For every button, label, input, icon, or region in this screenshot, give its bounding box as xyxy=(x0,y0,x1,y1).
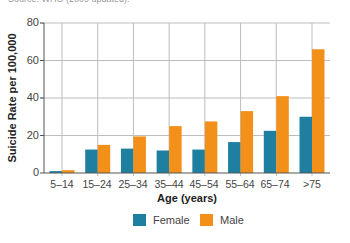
bar-male xyxy=(98,145,111,173)
bar-female xyxy=(264,131,277,173)
bar-male xyxy=(276,96,289,173)
bar-female xyxy=(85,150,98,173)
bar-female xyxy=(192,150,205,173)
legend-label-male: Male xyxy=(220,214,244,226)
legend-item-female: Female xyxy=(133,214,190,226)
x-tick: 35–44 xyxy=(154,178,183,190)
x-tick: >75 xyxy=(303,178,321,190)
bar-male xyxy=(205,121,218,173)
bar-male xyxy=(133,136,146,173)
bar-male xyxy=(241,111,254,173)
legend-label-female: Female xyxy=(153,214,190,226)
x-tick: 65–74 xyxy=(260,178,289,190)
x-tick: 55–64 xyxy=(225,178,254,190)
x-tick: 25–34 xyxy=(118,178,147,190)
x-axis-label: Age (years) xyxy=(157,192,217,204)
bar-male xyxy=(312,49,325,173)
x-tick: 45–54 xyxy=(189,178,218,190)
bar-chart-plot xyxy=(0,0,350,243)
bar-female xyxy=(121,149,134,173)
bar-female xyxy=(157,151,170,174)
bar-female xyxy=(228,142,241,173)
x-tick: 5–14 xyxy=(50,178,73,190)
bars xyxy=(50,49,325,173)
x-tick: 15–24 xyxy=(82,178,111,190)
bar-male xyxy=(169,126,182,173)
female-swatch-icon xyxy=(133,214,146,226)
legend-item-male: Male xyxy=(200,214,244,226)
male-swatch-icon xyxy=(200,214,213,226)
legend: Female Male xyxy=(0,214,350,230)
bar-female xyxy=(300,117,313,173)
x-axis-ticks: 5–14 15–24 25–34 35–44 45–54 55–64 65–74… xyxy=(0,178,350,192)
